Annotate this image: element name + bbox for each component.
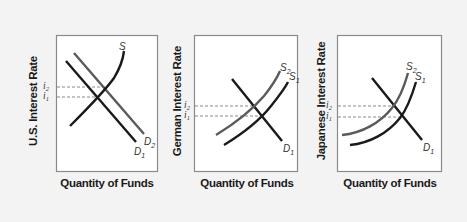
us-x-axis-label: Quantity of Funds (60, 177, 153, 189)
us-chart-panel: U.S. Interest Rate S D2 D1 i2 i1 Quantit… (0, 0, 160, 222)
us-i1-label: i1 (43, 91, 49, 102)
japanese-i2-label: i2 (326, 100, 333, 111)
german-i1-label: i1 (184, 110, 190, 121)
japanese-x-axis-label: Quantity of Funds (343, 177, 436, 189)
japanese-i1-label: i1 (326, 111, 332, 122)
japanese-chart-panel: Japanese Interest Rate S2 S1 D1 i2 i1 Qu… (310, 0, 467, 222)
german-x-axis-label: Quantity of Funds (200, 177, 293, 189)
us-s-label: S (119, 41, 126, 52)
german-chart-panel: German Interest Rate S2 S1 D1 i2 i1 Quan… (160, 0, 310, 222)
